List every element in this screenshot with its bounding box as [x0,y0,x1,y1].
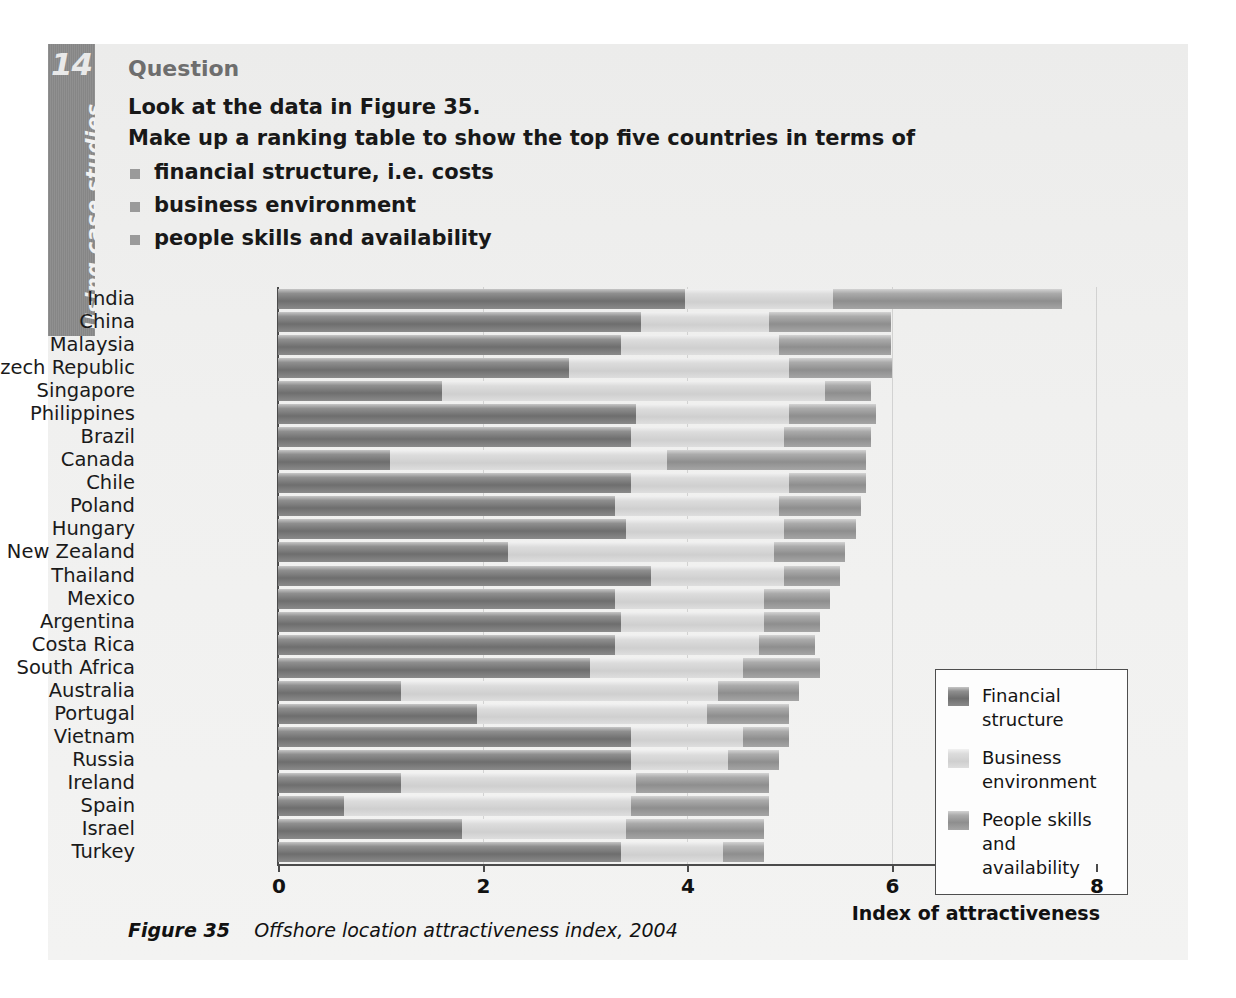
bar-row: Singapore [48,381,1188,401]
bar-row: India [48,289,1188,309]
bar-row: Brazil [48,427,1188,447]
bar-segment [278,589,615,609]
bar-segment [779,335,891,355]
list-item: people skills and availability [128,222,1028,255]
bar-segment [626,819,764,839]
bullet-label: business environment [154,193,416,217]
bar-segment [401,681,718,701]
bar-segment [631,427,784,447]
bar-segment [651,566,784,586]
bar-segment [631,727,743,747]
bar-segment [769,312,892,332]
question-heading: Question [128,54,1028,84]
y-axis-category-label: Spain [0,796,135,816]
bar-row: Thailand [48,566,1188,586]
bar-segment [723,842,764,862]
bar-segment [784,566,840,586]
bar-segment [278,450,390,470]
bar-segment [615,589,763,609]
question-line-2: Make up a ranking table to show the top … [128,123,1028,154]
bar-segment [569,358,789,378]
bar-segment [278,727,631,747]
bar-row: Poland [48,496,1188,516]
bar-row: Czech Republic [48,358,1188,378]
bar-row: Vietnam [48,727,1188,747]
bar-segment [728,750,779,770]
bar-segment [590,658,743,678]
y-axis-category-label: Philippines [0,404,135,424]
x-axis-tick-label: 8 [1090,874,1104,898]
bar-row: Turkey [48,842,1188,862]
y-axis-category-label: India [0,289,135,309]
bar-segment [508,542,774,562]
bar-row: Spain [48,796,1188,816]
bar-segment [825,381,871,401]
bar-row: Ireland [48,773,1188,793]
bar-row: Argentina [48,612,1188,632]
bar-row: Philippines [48,404,1188,424]
bar-segment [278,773,401,793]
bar-segment [390,450,666,470]
bar-segment [631,473,789,493]
bar-segment [621,842,723,862]
y-axis-category-label: Russia [0,750,135,770]
bar-segment [278,635,615,655]
bar-segment [615,635,758,655]
x-axis-tick [483,864,485,872]
x-axis-tick [1096,864,1098,872]
x-axis-tick-label: 2 [477,874,491,898]
y-axis-category-label: Costa Rica [0,635,135,655]
bullet-square-icon [130,235,140,245]
y-axis-category-label: Turkey [0,842,135,862]
figure-caption-text: Offshore location attractiveness index, … [254,919,678,941]
bullet-square-icon [130,169,140,179]
bar-segment [764,612,820,632]
bar-segment [278,519,626,539]
bar-segment [278,404,636,424]
bullet-square-icon [130,202,140,212]
chapter-number: 14 [48,46,95,82]
y-axis-category-label: Singapore [0,381,135,401]
y-axis-category-label: Portugal [0,704,135,724]
chart: Index of attractiveness Financial struct… [48,284,1188,904]
y-axis-category-label: Hungary [0,519,135,539]
x-axis-title: Index of attractiveness [852,902,1100,924]
y-axis-category-label: Thailand [0,566,135,586]
bar-segment [641,312,769,332]
bar-row: Canada [48,450,1188,470]
y-axis-category-label: Chile [0,473,135,493]
y-axis-category-label: New Zealand [0,542,135,562]
bar-segment [784,519,856,539]
bar-segment [789,473,866,493]
bar-segment [278,819,462,839]
x-axis-tick [278,864,280,872]
y-axis-category-label: Australia [0,681,135,701]
list-item: financial structure, i.e. costs [128,156,1028,189]
bar-segment [667,450,866,470]
bar-segment [621,612,764,632]
bar-segment [631,796,769,816]
x-axis-tick-label: 6 [886,874,900,898]
bar-row: Mexico [48,589,1188,609]
figure-caption: Figure 35 Offshore location attractivene… [128,919,678,941]
bar-segment [707,704,789,724]
bar-segment [278,842,621,862]
x-axis-tick [687,864,689,872]
bar-segment [759,635,815,655]
bar-segment [718,681,800,701]
bar-segment [278,289,685,309]
x-axis-tick-label: 4 [681,874,695,898]
bar-row: Israel [48,819,1188,839]
bar-segment [685,289,833,309]
x-axis-tick [892,864,894,872]
bar-segment [784,427,871,447]
y-axis-category-label: Canada [0,450,135,470]
y-axis-category-label: Vietnam [0,727,135,747]
question-line-1: Look at the data in Figure 35. [128,92,1028,123]
bar-segment [278,312,641,332]
bar-segment [442,381,825,401]
y-axis-category-label: Poland [0,496,135,516]
bullet-label: people skills and availability [154,226,492,250]
bar-segment [631,750,728,770]
bar-row: South Africa [48,658,1188,678]
